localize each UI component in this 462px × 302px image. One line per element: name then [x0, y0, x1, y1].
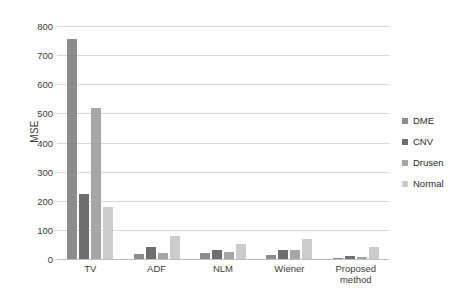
bar-normal-nlm[interactable]	[236, 244, 246, 259]
bar-cnv-tv[interactable]	[79, 194, 89, 259]
y-tick-label-600: 600	[9, 79, 53, 90]
y-tick-label-700: 700	[9, 50, 53, 61]
bar-group-proposed-method	[323, 26, 389, 259]
legend: DMECNVDrusenNormal	[402, 110, 460, 194]
bar-normal-tv[interactable]	[103, 207, 113, 259]
bar-drusen-wiener[interactable]	[290, 250, 300, 259]
legend-label: Drusen	[413, 157, 444, 168]
bar-drusen-proposed-method[interactable]	[357, 257, 367, 259]
legend-swatch-dme-icon	[402, 118, 408, 124]
legend-swatch-cnv-icon	[402, 139, 408, 145]
y-tick-label-400: 400	[9, 137, 53, 148]
bar-group-tv	[57, 26, 123, 259]
legend-label: Normal	[413, 178, 444, 189]
bar-group-nlm	[190, 26, 256, 259]
legend-item-dme[interactable]: DME	[402, 110, 460, 131]
legend-swatch-drusen-icon	[402, 160, 408, 166]
y-tick-label-0: 0	[9, 254, 53, 265]
bar-drusen-tv[interactable]	[91, 108, 101, 259]
bar-normal-wiener[interactable]	[302, 239, 312, 259]
y-tick-label-200: 200	[9, 195, 53, 206]
y-tick-label-500: 500	[9, 108, 53, 119]
legend-item-normal[interactable]: Normal	[402, 173, 460, 194]
x-tick-label-wiener: Wiener	[256, 263, 322, 274]
bar-cnv-wiener[interactable]	[278, 250, 288, 259]
bar-group-adf	[123, 26, 189, 259]
bar-drusen-nlm[interactable]	[224, 252, 234, 259]
bar-drusen-adf[interactable]	[158, 253, 168, 259]
bar-dme-wiener[interactable]	[266, 255, 276, 259]
x-tick-label-nlm: NLM	[190, 263, 256, 274]
mse-bar-chart: MSE 0100200300400500600700800 TVADFNLMWi…	[0, 0, 462, 302]
y-tick-label-300: 300	[9, 166, 53, 177]
legend-label: DME	[413, 115, 434, 126]
gridline-0	[57, 259, 389, 260]
bar-cnv-proposed-method[interactable]	[345, 256, 355, 259]
legend-swatch-normal-icon	[402, 181, 408, 187]
bar-dme-adf[interactable]	[134, 254, 144, 259]
bar-dme-proposed-method[interactable]	[333, 258, 343, 259]
plot-area: 0100200300400500600700800	[57, 26, 389, 259]
legend-label: CNV	[413, 136, 433, 147]
bar-cnv-adf[interactable]	[146, 247, 156, 259]
bar-dme-nlm[interactable]	[200, 253, 210, 259]
legend-item-cnv[interactable]: CNV	[402, 131, 460, 152]
bar-normal-adf[interactable]	[170, 236, 180, 259]
y-tick-label-100: 100	[9, 224, 53, 235]
x-tick-label-tv: TV	[57, 263, 123, 274]
x-tick-label-adf: ADF	[123, 263, 189, 274]
bar-dme-tv[interactable]	[67, 39, 77, 259]
bar-cnv-nlm[interactable]	[212, 250, 222, 259]
y-tick-label-800: 800	[9, 21, 53, 32]
bar-normal-proposed-method[interactable]	[369, 247, 379, 259]
legend-item-drusen[interactable]: Drusen	[402, 152, 460, 173]
x-tick-label-proposed-method: Proposed method	[323, 263, 389, 285]
bar-group-wiener	[256, 26, 322, 259]
